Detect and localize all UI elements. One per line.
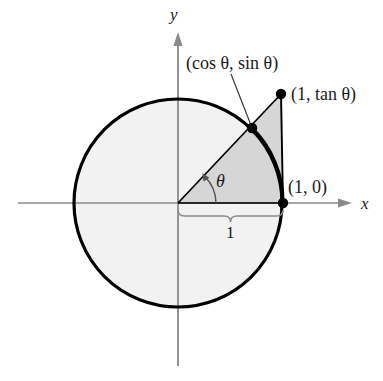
y-axis-label: y: [170, 6, 178, 23]
y-axis-arrowhead: [173, 32, 182, 46]
point-on-circle-label: (cos θ, sin θ): [186, 54, 278, 72]
dot-point-tangent: [276, 89, 286, 99]
x-axis-arrowhead: [338, 198, 352, 207]
point-tangent-label: (1, tan θ): [291, 85, 356, 103]
dot-point-on-circle: [247, 123, 257, 133]
unit-length-label: 1: [226, 224, 235, 241]
theta-angle-label: θ: [216, 172, 225, 190]
point-unit-x-label: (1, 0): [288, 178, 327, 196]
x-axis-label: x: [361, 195, 369, 212]
figure-canvas: y x (cos θ, sin θ) (1, tan θ) (1, 0) θ 1: [0, 0, 383, 381]
dot-point-unit-x: [278, 198, 288, 208]
